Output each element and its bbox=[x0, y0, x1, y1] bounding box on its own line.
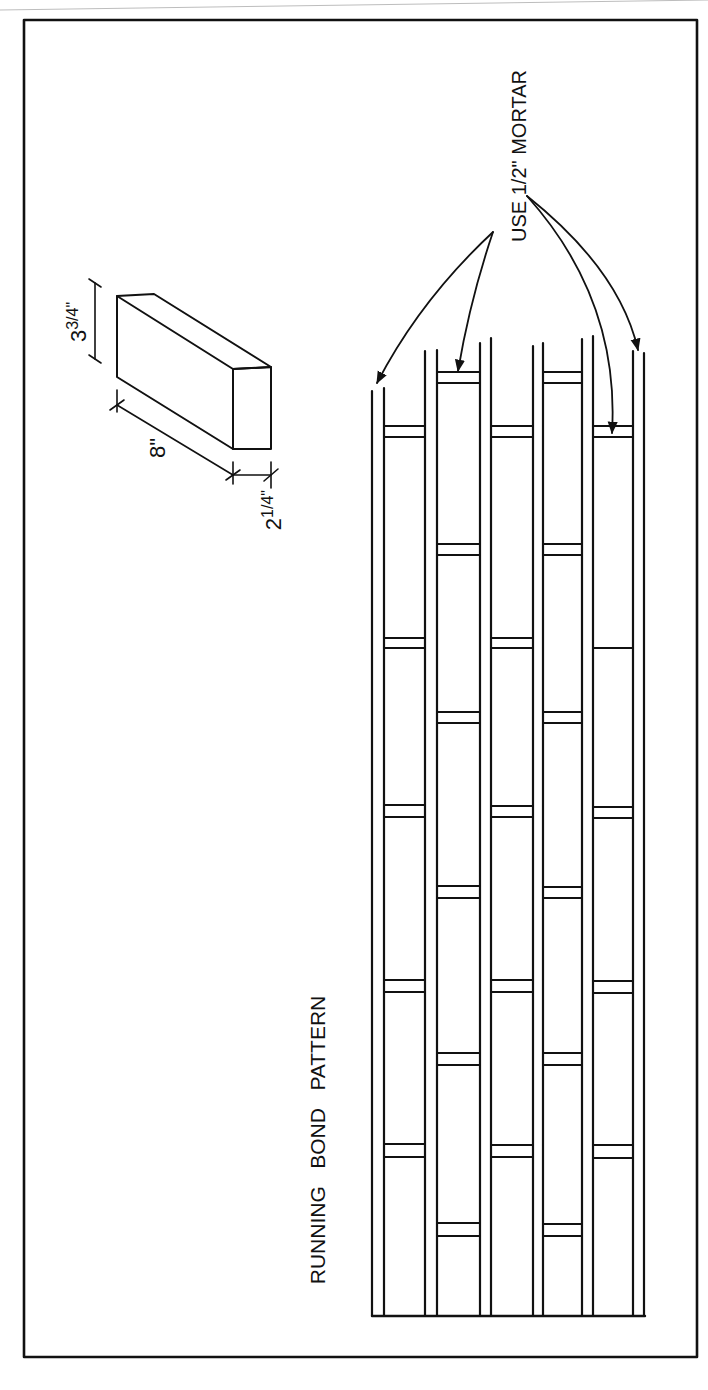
width-dimension: 21/4" bbox=[233, 462, 286, 530]
drawing-sheet: 33/4" 8" 21/4" US bbox=[0, 0, 708, 1390]
bed-joint-lines bbox=[372, 336, 644, 1316]
leader-arrow bbox=[377, 232, 493, 383]
width-label: 21/4" bbox=[259, 490, 286, 530]
height-dimension: 33/4" bbox=[64, 279, 101, 363]
scan-edge bbox=[0, 0, 708, 10]
brick-top-face bbox=[117, 294, 271, 369]
head-joints bbox=[384, 372, 633, 1236]
leader-arrow bbox=[527, 196, 613, 433]
running-bond-wall bbox=[372, 336, 645, 1316]
leader-arrow bbox=[458, 232, 493, 371]
drawing-title: RUNNING BOND PATTERN bbox=[306, 996, 329, 1285]
running-bond-drawing: 33/4" 8" 21/4" US bbox=[0, 0, 708, 1390]
length-dimension: 8" bbox=[110, 390, 240, 484]
height-label: 33/4" bbox=[64, 302, 91, 342]
length-label: 8" bbox=[145, 438, 170, 458]
mortar-note: USE 1/2" MORTAR bbox=[508, 70, 530, 242]
brick-long-face bbox=[117, 296, 233, 449]
brick-detail: 33/4" 8" 21/4" bbox=[64, 279, 286, 530]
leader-arrow bbox=[527, 196, 638, 350]
drawing-frame bbox=[24, 20, 697, 1357]
brick-end-face bbox=[233, 367, 271, 449]
